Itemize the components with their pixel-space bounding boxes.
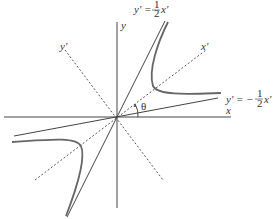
x-prime-label: x' <box>200 40 209 52</box>
theta-label: θ <box>141 100 146 112</box>
equation-upper-asymptote: y' = 1 2 x' <box>133 0 169 19</box>
y-prime-axis <box>65 50 163 180</box>
eq-upper-den: 2 <box>154 7 160 19</box>
equation-lower-asymptote: y' = − 1 2 x' <box>225 87 272 109</box>
eq-lower-rhs: x' <box>263 93 272 105</box>
eq-upper-rhs: x' <box>160 3 169 15</box>
hyperbola-branch-upper <box>152 22 221 94</box>
eq-lower-lhs: y' = − <box>225 93 254 105</box>
x-axis-label: x <box>225 104 231 116</box>
rotated-hyperbola-diagram: y x x' y' θ y' = 1 2 x' y' = − 1 2 x' <box>0 0 274 219</box>
y-prime-label: y' <box>59 40 68 52</box>
eq-lower-den: 2 <box>257 97 263 109</box>
hyperbola-branch-lower <box>12 140 82 217</box>
eq-upper-lhs: y' = <box>133 3 151 15</box>
y-axis-label: y <box>120 19 126 31</box>
x-prime-axis <box>35 50 206 180</box>
asymptote-upper <box>67 21 165 217</box>
